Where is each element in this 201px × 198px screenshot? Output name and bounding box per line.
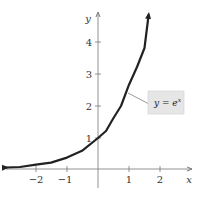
x-tick-label: −1 xyxy=(58,174,73,185)
x-tick-label: 1 xyxy=(126,174,132,185)
equation-label: y = ex xyxy=(153,96,182,108)
y-tick-label: 3 xyxy=(86,69,92,80)
chart: −2 −1 1 2 x 1 2 3 4 y y = ex xyxy=(0,0,201,198)
x-axis-label: x xyxy=(186,174,192,185)
annotation-leader xyxy=(128,93,149,104)
y-axis-label: y xyxy=(84,13,91,24)
exponential-plot: −2 −1 1 2 x 1 2 3 4 y y = ex xyxy=(0,0,201,198)
y-tick-label: 2 xyxy=(86,101,92,112)
x-tick-label: 2 xyxy=(157,174,163,185)
y-tick-label: 4 xyxy=(86,37,92,48)
exp-curve xyxy=(6,15,149,168)
x-tick-label: −2 xyxy=(29,174,44,185)
